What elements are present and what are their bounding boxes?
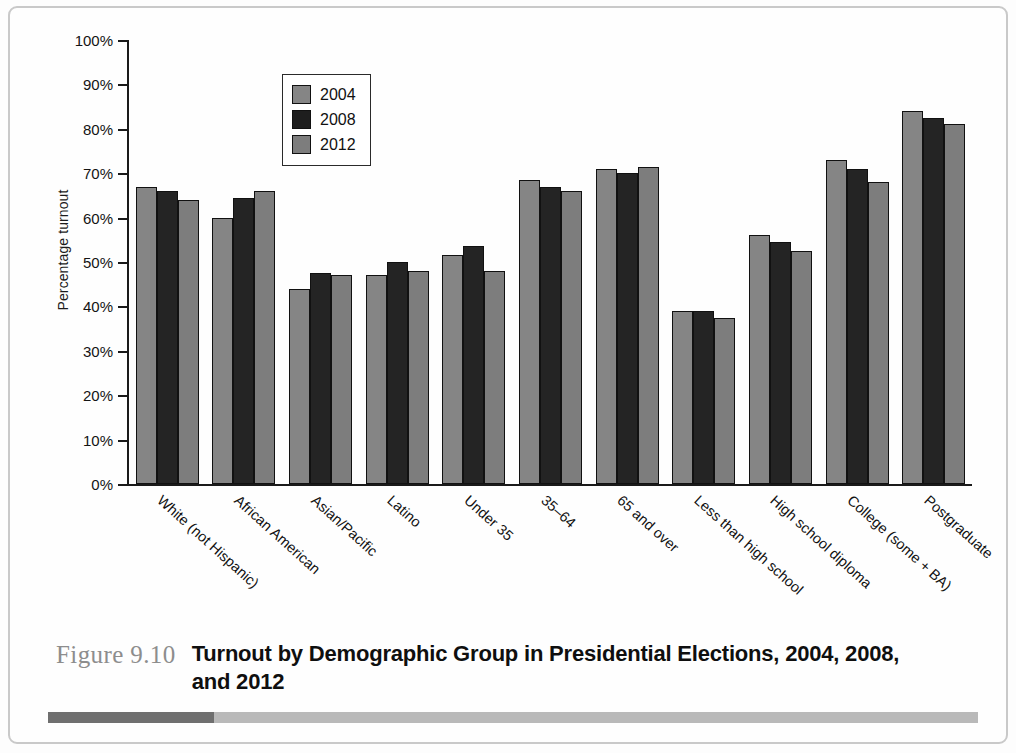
y-tick-label: 90% (83, 76, 113, 93)
x-category: Under 35 (436, 488, 513, 628)
bar-2012 (484, 271, 505, 484)
bar-2008 (770, 242, 791, 484)
bar-2008 (387, 262, 408, 484)
bar-group (895, 40, 972, 484)
bar-group (436, 40, 513, 484)
bar-2012 (944, 124, 965, 484)
y-tick-label: 60% (83, 209, 113, 226)
legend-swatch-2008 (292, 110, 311, 129)
x-category: High school diploma (742, 488, 819, 628)
y-tick-label: 100% (75, 32, 113, 49)
bar-2008 (847, 169, 868, 484)
bar-groups (129, 40, 972, 484)
figure-number: Figure 9.10 (56, 640, 176, 671)
bar-2004 (672, 311, 693, 484)
legend-label-2004: 2004 (320, 86, 356, 104)
x-category: Asian/Pacific (282, 488, 359, 628)
bar-2008 (463, 246, 484, 484)
y-tick-mark (118, 484, 127, 486)
x-category: Less than high school (665, 488, 742, 628)
figure-frame: Percentage turnout 100%90%80%70%60%50%40… (8, 6, 1008, 744)
bar-2004 (749, 235, 770, 484)
bar-group (129, 40, 206, 484)
bar-2008 (233, 198, 254, 484)
bar-2012 (714, 318, 735, 485)
bar-2012 (408, 271, 429, 484)
x-category: 35–64 (512, 488, 589, 628)
bar-group (206, 40, 283, 484)
bar-2004 (136, 187, 157, 484)
bar-2012 (638, 167, 659, 484)
figure-title: Turnout by Demographic Group in Presiden… (192, 640, 932, 695)
x-category: 65 and over (589, 488, 666, 628)
chart-area: Percentage turnout 100%90%80%70%60%50%40… (30, 22, 992, 622)
y-tick-mark (118, 40, 127, 42)
x-axis-line (127, 484, 972, 486)
caption-rule (48, 712, 978, 723)
bar-2012 (868, 182, 889, 484)
bar-2012 (331, 275, 352, 484)
bar-2012 (561, 191, 582, 484)
legend-item-2012: 2012 (292, 132, 356, 157)
figure-caption: Figure 9.10 Turnout by Demographic Group… (56, 640, 966, 695)
y-tick-label: 70% (83, 165, 113, 182)
y-tick-mark (118, 84, 127, 86)
legend-label-2012: 2012 (320, 136, 356, 154)
bar-2004 (596, 169, 617, 484)
bar-2012 (791, 251, 812, 484)
bar-2004 (826, 160, 847, 484)
bar-2004 (289, 289, 310, 484)
x-category: White (not Hispanic) (129, 488, 206, 628)
y-tick-mark (118, 351, 127, 353)
figure-page: Percentage turnout 100%90%80%70%60%50%40… (0, 0, 1016, 753)
bar-2008 (540, 187, 561, 484)
y-axis-title: Percentage turnout (55, 165, 71, 335)
y-tick-label: 50% (83, 254, 113, 271)
legend-swatch-2004 (292, 85, 311, 104)
y-tick-mark (118, 395, 127, 397)
caption-rule-light (214, 712, 978, 723)
bar-group (589, 40, 666, 484)
y-tick-mark (118, 306, 127, 308)
x-category: Latino (359, 488, 436, 628)
y-tick-mark (118, 218, 127, 220)
x-category: Postgraduate (895, 488, 972, 628)
y-tick-mark (118, 173, 127, 175)
legend-label-2008: 2008 (320, 111, 356, 129)
x-category: African American (206, 488, 283, 628)
bar-2004 (212, 218, 233, 484)
bar-group (819, 40, 896, 484)
y-tick-label: 0% (91, 476, 113, 493)
caption-rule-dark (48, 712, 214, 723)
plot-region: 100%90%80%70%60%50%40%30%20%10%0% 2004 2… (127, 40, 972, 486)
x-category-label: 35–64 (538, 492, 579, 531)
y-tick-label: 30% (83, 342, 113, 359)
bar-2004 (442, 255, 463, 484)
bar-2012 (254, 191, 275, 484)
y-tick-label: 40% (83, 298, 113, 315)
y-tick-label: 80% (83, 120, 113, 137)
legend-swatch-2012 (292, 135, 311, 154)
bar-2008 (923, 118, 944, 484)
x-category-label: Postgraduate (921, 492, 996, 562)
bar-group (512, 40, 589, 484)
legend-item-2004: 2004 (292, 82, 356, 107)
y-tick-mark (118, 129, 127, 131)
x-category: College (some + BA) (819, 488, 896, 628)
bar-2008 (693, 311, 714, 484)
y-tick-mark (118, 440, 127, 442)
bar-2004 (366, 275, 387, 484)
x-axis-category-labels: White (not Hispanic)African AmericanAsia… (129, 488, 972, 628)
bar-group (742, 40, 819, 484)
bar-2012 (178, 200, 199, 484)
bar-2004 (902, 111, 923, 484)
bar-2008 (310, 273, 331, 484)
bar-2008 (157, 191, 178, 484)
bar-2004 (519, 180, 540, 484)
x-category-label: Under 35 (461, 492, 516, 544)
y-tick-mark (118, 262, 127, 264)
chart-legend: 2004 2008 2012 (282, 74, 371, 166)
y-tick-label: 10% (83, 431, 113, 448)
legend-item-2008: 2008 (292, 107, 356, 132)
bar-2008 (617, 173, 638, 484)
